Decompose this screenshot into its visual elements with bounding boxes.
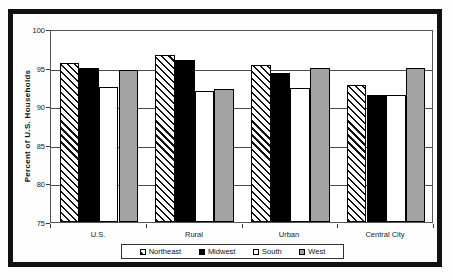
chart-outer-frame <box>8 9 442 267</box>
chart-page: Percent of U.S. Households 7580859095100… <box>0 0 453 280</box>
